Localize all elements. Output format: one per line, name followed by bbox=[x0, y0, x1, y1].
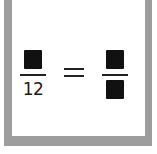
right-numerator-blank-box[interactable] bbox=[106, 50, 124, 69]
left-fraction-bar bbox=[20, 74, 46, 76]
equals-sign bbox=[64, 68, 84, 82]
left-fraction: 12 bbox=[20, 50, 46, 98]
card-frame-right bbox=[145, 0, 152, 146]
left-numerator-blank-box[interactable] bbox=[24, 50, 42, 69]
card-frame-bottom bbox=[4, 136, 152, 146]
right-fraction bbox=[102, 50, 128, 99]
left-denominator: 12 bbox=[23, 80, 44, 98]
right-denominator-blank-box[interactable] bbox=[106, 80, 124, 99]
card-frame-corner bbox=[12, 128, 22, 136]
card-frame-left bbox=[4, 0, 12, 146]
right-fraction-bar bbox=[102, 74, 128, 76]
